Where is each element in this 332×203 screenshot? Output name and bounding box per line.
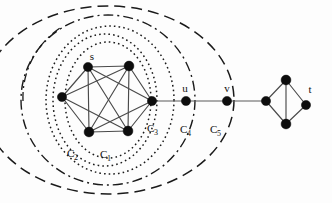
node-n6[interactable] bbox=[123, 126, 133, 136]
cluster-label-c5: C 5 bbox=[210, 123, 221, 138]
cluster-ellipse-c5 bbox=[0, 6, 234, 194]
label-u: u bbox=[182, 82, 188, 94]
label-v: v bbox=[224, 82, 230, 94]
node-n2[interactable] bbox=[124, 61, 134, 71]
cluster-label-c4: C 4 bbox=[180, 123, 191, 138]
cluster-label-c4-sub: 4 bbox=[187, 129, 191, 138]
edge-n1-n2 bbox=[88, 66, 129, 67]
cluster-label-c1: C 1 bbox=[100, 148, 111, 163]
node-n3[interactable] bbox=[57, 92, 66, 101]
node-n10[interactable] bbox=[281, 75, 291, 85]
cluster-label-c3-sub: 3 bbox=[154, 128, 158, 137]
edge-n1-n4 bbox=[88, 67, 152, 101]
node-n4[interactable] bbox=[147, 96, 156, 105]
edge-n3-n5 bbox=[62, 97, 89, 132]
cluster-label-c1-sub: 1 bbox=[107, 154, 111, 163]
edge-n1-n3 bbox=[62, 67, 88, 97]
node-v[interactable] bbox=[222, 96, 231, 105]
graph-figure: s u v t C 1 C 2 C 3 C 4 C bbox=[0, 0, 332, 203]
label-t: t bbox=[308, 83, 311, 95]
cluster-label-c3: C 3 bbox=[147, 122, 158, 137]
edge-n3-n6 bbox=[62, 97, 128, 131]
edge-n1-n5 bbox=[88, 67, 89, 132]
graph-canvas: s u v t C 1 C 2 C 3 C 4 C bbox=[0, 0, 332, 203]
cluster-label-c5-sub: 5 bbox=[217, 129, 221, 138]
label-s: s bbox=[90, 50, 94, 62]
cluster-label-c2: C 2 bbox=[67, 147, 78, 162]
node-t[interactable] bbox=[301, 100, 310, 109]
node-n5[interactable] bbox=[84, 127, 94, 137]
node-n11[interactable] bbox=[281, 119, 291, 129]
node-n9[interactable] bbox=[261, 96, 270, 105]
node-u[interactable] bbox=[181, 96, 190, 105]
cluster-boundaries bbox=[0, 6, 234, 194]
edge-n5-n6 bbox=[89, 131, 128, 132]
edge-n2-n6 bbox=[128, 66, 129, 131]
node-s[interactable] bbox=[83, 62, 92, 71]
cluster-label-c2-sub: 2 bbox=[74, 153, 78, 162]
